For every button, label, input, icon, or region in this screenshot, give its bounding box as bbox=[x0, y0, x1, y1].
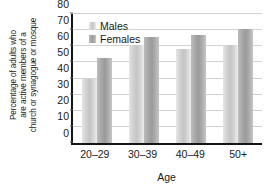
bar-group bbox=[168, 14, 215, 143]
y-tick-label: 40 bbox=[57, 63, 69, 74]
legend-label-males: Males bbox=[100, 21, 128, 32]
legend-swatch-icon-males bbox=[89, 22, 96, 30]
x-axis-tick-labels: 20–2930–3940–4950+ bbox=[71, 149, 262, 160]
bar-females bbox=[238, 29, 253, 143]
bar-group bbox=[215, 14, 262, 143]
legend-label-females: Females bbox=[100, 34, 140, 45]
x-tick-label: 30–39 bbox=[119, 149, 167, 160]
legend-swatch-icon-females bbox=[89, 35, 96, 43]
x-tick-label: 40–49 bbox=[167, 149, 215, 160]
y-tick-label: 80 bbox=[57, 0, 69, 9]
y-axis-title-line-2: are active members of a bbox=[19, 32, 29, 118]
y-tick-label: 60 bbox=[57, 31, 69, 42]
bar-females bbox=[191, 35, 206, 143]
y-axis-title: Percentage of adults who are active memb… bbox=[0, 0, 48, 150]
bar-females bbox=[144, 37, 159, 143]
bar-males bbox=[223, 45, 238, 143]
y-axis-title-line-3: church or synagogue or mosque bbox=[29, 18, 39, 133]
legend: Males Females bbox=[89, 21, 140, 44]
x-tick-label: 50+ bbox=[214, 149, 262, 160]
bar-chart: Percentage of adults who are active memb… bbox=[0, 0, 275, 194]
y-tick-label: 70 bbox=[57, 14, 69, 25]
x-tick-label: 20–29 bbox=[71, 149, 119, 160]
legend-item-males: Males bbox=[89, 21, 140, 32]
y-tick-label: 30 bbox=[57, 79, 69, 90]
y-tick-label: 50 bbox=[57, 47, 69, 58]
legend-item-females: Females bbox=[89, 34, 140, 45]
bar-males bbox=[82, 79, 97, 144]
y-axis-title-line-1: Percentage of adults who bbox=[9, 30, 19, 120]
y-tick-label: 0 bbox=[63, 127, 69, 138]
y-tick-label: 10 bbox=[57, 111, 69, 122]
bar-males bbox=[176, 49, 191, 143]
x-axis-title: Age bbox=[71, 172, 262, 183]
y-tick-label: 20 bbox=[57, 95, 69, 106]
bar-females bbox=[97, 58, 112, 143]
plot-area: 01020304050607080 Males Females bbox=[71, 14, 262, 145]
bar-males bbox=[129, 45, 144, 143]
